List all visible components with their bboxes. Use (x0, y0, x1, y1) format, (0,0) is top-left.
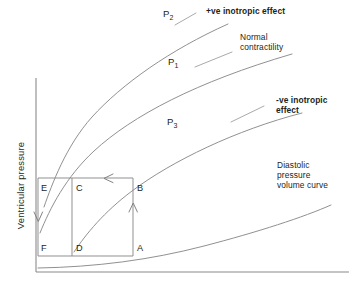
pv-loop-rectangle (38, 178, 133, 256)
curve-label-p1: P1 (168, 56, 179, 67)
curve-p1 (40, 54, 292, 233)
curve-p3 (74, 113, 302, 252)
pv-loop-figure: Ventricular pressure P2 P1 P3 +ve inotro… (0, 0, 354, 287)
loop-vertex-label-c: C (76, 183, 83, 194)
loop-vertex-label-a: A (137, 243, 143, 254)
leader-positive-inotropic (175, 13, 196, 25)
annotation-normal-contractility: Normal contractility (240, 33, 283, 53)
annotation-diastolic-curve: Diastolic pressure volume curve (277, 161, 328, 190)
pv-loop-canvas (0, 0, 354, 287)
curve-label-p2: P2 (163, 8, 174, 19)
annotation-positive-inotropic: +ve inotropic effect (206, 7, 285, 17)
curve-diastolic (38, 205, 331, 268)
curve-label-p3: P3 (167, 116, 178, 127)
leader-negative-inotropic (231, 106, 264, 122)
loop-vertex-label-e: E (41, 183, 47, 194)
curve-label-p2-subscript: 2 (170, 14, 174, 21)
loop-vertex-label-d: D (76, 243, 83, 254)
annotation-negative-inotropic: -ve inotropic effect (276, 96, 328, 116)
curve-label-p3-subscript: 3 (174, 122, 178, 129)
curve-label-p1-subscript: 1 (175, 62, 179, 69)
y-axis-label: Ventricular pressure (16, 125, 27, 245)
loop-vertex-label-f: F (41, 243, 47, 254)
leader-normal-contractility (195, 52, 232, 67)
loop-vertex-label-b: B (137, 183, 143, 194)
